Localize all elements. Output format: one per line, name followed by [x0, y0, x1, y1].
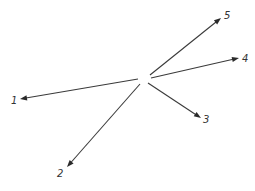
vector-3: 3 [148, 83, 209, 125]
vector-3-label: 3 [203, 114, 209, 125]
vector-1: 1 [11, 79, 138, 106]
vector-1-label: 1 [11, 95, 17, 106]
vector-4: 4 [151, 53, 248, 78]
vector-2: 2 [57, 84, 140, 179]
vector-4-shaft [151, 59, 233, 78]
vector-2-shaft [71, 84, 140, 162]
vector-5-label: 5 [224, 10, 230, 21]
arrowhead-icon [232, 57, 239, 62]
vector-diagram: 12345 [0, 0, 255, 191]
vector-1-shaft [26, 79, 138, 98]
vector-2-label: 2 [57, 168, 63, 179]
arrowhead-icon [20, 95, 27, 100]
vector-4-label: 4 [242, 53, 248, 64]
vector-5: 5 [150, 10, 230, 75]
vector-5-shaft [150, 22, 216, 75]
vector-3-shaft [148, 83, 196, 115]
arrowhead-icon [194, 112, 201, 118]
vectors-group: 12345 [11, 10, 248, 179]
